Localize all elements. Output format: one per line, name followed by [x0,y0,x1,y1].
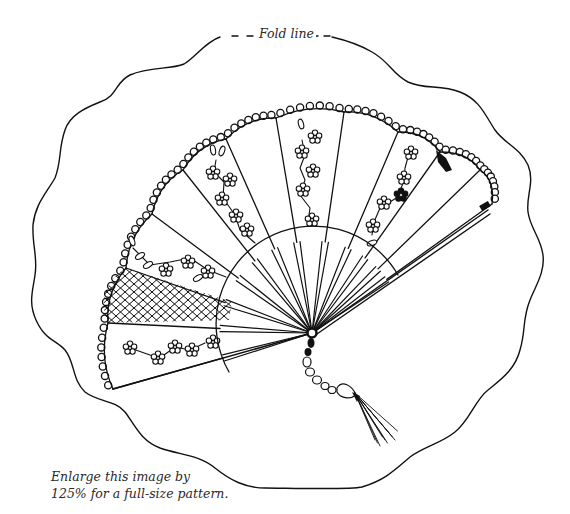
fan-pattern-drawing [0,0,570,514]
tassel-icon [352,392,398,446]
fan-ribs [113,201,491,389]
enlarge-note-line-1: Enlarge this image by [51,468,228,485]
fold-line-label: Fold line [257,26,316,41]
pivot-and-tassel [303,329,398,447]
wavy-border [32,37,544,489]
enlarge-note: Enlarge this image by 125% for a full-si… [51,468,228,502]
flower-motifs [123,119,418,365]
enlarge-note-line-2: 125% for a full-size pattern. [51,485,228,502]
